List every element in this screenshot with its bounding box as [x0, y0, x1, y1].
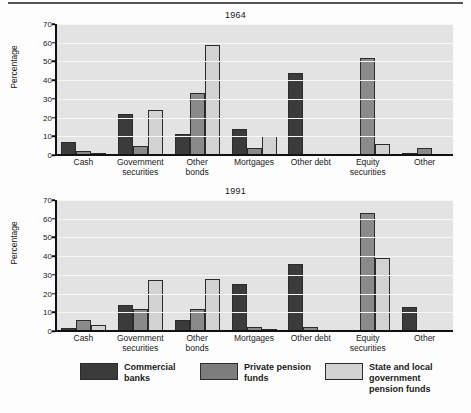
bar	[148, 280, 163, 331]
x-tick-label: Other	[414, 333, 435, 343]
chart-panel-1964: 1964 Percentage 010203040506070 CashGove…	[0, 10, 471, 175]
bar	[190, 93, 205, 155]
legend-swatch-commercial-banks	[80, 363, 118, 380]
x-tick-label: Mortgages	[234, 333, 274, 343]
y-tick-mark	[52, 79, 55, 81]
y-tick-label: 0	[0, 151, 56, 160]
y-tick-mark	[52, 274, 55, 276]
y-tick-label: 50	[0, 57, 56, 66]
y-tick-mark	[52, 293, 55, 295]
legend-label-state-local-pension-funds: State and local government pension funds	[369, 362, 471, 395]
y-tick-mark	[52, 199, 55, 201]
chart-legend: Commercial banksPrivate pension fundsSta…	[0, 362, 471, 410]
x-tick-label: Equitysecurities	[350, 333, 386, 353]
x-axis-line-1991	[55, 330, 453, 332]
x-tick-label: Other debt	[291, 333, 331, 343]
x-tick-label: Cash	[74, 157, 94, 167]
gridline	[55, 43, 453, 44]
legend-label-commercial-banks: Commercial banks	[124, 362, 176, 384]
y-tick-label: 30	[0, 94, 56, 103]
x-tick-label: Other debt	[291, 157, 331, 167]
bar	[118, 305, 133, 331]
y-tick-mark	[52, 330, 55, 332]
y-tick-label: 10	[0, 132, 56, 141]
y-tick-mark	[52, 61, 55, 63]
legend-label-private-pension-funds: Private pension funds	[244, 362, 311, 384]
x-tick-label: Other	[414, 157, 435, 167]
y-tick-mark	[52, 23, 55, 25]
gridline	[55, 237, 453, 238]
top-divider	[8, 2, 463, 4]
x-tick-label: Otherbonds	[186, 157, 209, 177]
bar	[360, 213, 375, 331]
bar	[232, 284, 247, 331]
y-tick-label: 20	[0, 113, 56, 122]
x-tick-label: Governmentsecurities	[117, 157, 164, 177]
y-tick-label: 40	[0, 252, 56, 261]
x-axis-labels-1964: CashGovernmentsecuritiesOtherbondsMortga…	[55, 157, 453, 181]
bar	[262, 136, 277, 155]
legend-swatch-private-pension-funds	[200, 363, 238, 380]
plot-area-1991	[55, 200, 453, 331]
gridline	[55, 24, 453, 25]
y-tick-mark	[52, 154, 55, 156]
gridline	[55, 312, 453, 313]
x-tick-label: Otherbonds	[186, 333, 209, 353]
gridline	[55, 136, 453, 137]
y-tick-mark	[52, 312, 55, 314]
y-tick-label: 60	[0, 38, 56, 47]
bar	[360, 58, 375, 155]
y-tick-label: 60	[0, 214, 56, 223]
bar	[205, 279, 220, 331]
chart-panel-1991: 1991 Percentage 010203040506070 CashGove…	[0, 186, 471, 351]
y-tick-label: 70	[0, 20, 56, 29]
y-tick-label: 0	[0, 327, 56, 336]
gridline	[55, 118, 453, 119]
y-tick-mark	[52, 255, 55, 257]
x-tick-label: Cash	[74, 333, 94, 343]
bar	[232, 129, 247, 155]
legend-item-commercial-banks: Commercial banks	[80, 362, 176, 384]
gridline	[55, 99, 453, 100]
y-tick-label: 70	[0, 196, 56, 205]
gridline	[55, 80, 453, 81]
y-tick-mark	[52, 117, 55, 119]
y-tick-label: 20	[0, 289, 56, 298]
bar	[175, 134, 190, 155]
bar	[288, 264, 303, 331]
chart-title-1991: 1991	[0, 186, 471, 196]
y-tick-mark	[52, 136, 55, 138]
y-tick-mark	[52, 42, 55, 44]
bar	[118, 114, 133, 155]
bar	[288, 73, 303, 155]
y-tick-mark	[52, 218, 55, 220]
y-tick-label: 50	[0, 233, 56, 242]
gridline	[55, 200, 453, 201]
y-tick-label: 10	[0, 308, 56, 317]
chart-page: 1964 Percentage 010203040506070 CashGove…	[0, 0, 471, 413]
plot-area-1964	[55, 24, 453, 155]
gridline	[55, 219, 453, 220]
gridline	[55, 275, 453, 276]
x-tick-label: Mortgages	[234, 157, 274, 167]
x-axis-line-1964	[55, 154, 453, 156]
x-axis-labels-1991: CashGovernmentsecuritiesOtherbondsMortga…	[55, 333, 453, 357]
legend-item-state-local-pension-funds: State and local government pension funds	[325, 362, 471, 395]
x-tick-label: Governmentsecurities	[117, 333, 164, 353]
y-tick-mark	[52, 98, 55, 100]
x-tick-label: Equitysecurities	[350, 157, 386, 177]
legend-item-private-pension-funds: Private pension funds	[200, 362, 311, 384]
chart-title-1964: 1964	[0, 10, 471, 20]
gridline	[55, 256, 453, 257]
y-tick-label: 40	[0, 76, 56, 85]
gridline	[55, 294, 453, 295]
legend-swatch-state-local-pension-funds	[325, 363, 363, 380]
y-tick-mark	[52, 237, 55, 239]
y-tick-label: 30	[0, 270, 56, 279]
gridline	[55, 61, 453, 62]
bar	[402, 307, 417, 331]
